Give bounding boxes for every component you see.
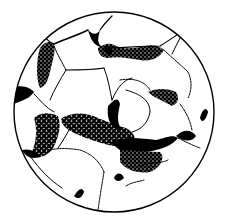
cement-patch — [120, 150, 162, 173]
cement-patch — [37, 42, 55, 88]
thin-section-illustration — [0, 0, 228, 224]
grain-field — [14, 16, 208, 210]
cement-patch — [30, 113, 60, 157]
